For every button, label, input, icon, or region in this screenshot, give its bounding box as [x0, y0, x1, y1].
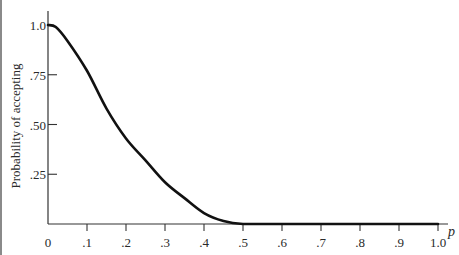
- x-tick-label: .6: [277, 235, 287, 250]
- y-tick-label: .75: [30, 68, 46, 83]
- y-tick-label: .50: [30, 118, 46, 133]
- x-tick-label: .9: [394, 235, 404, 250]
- x-tick-label: .7: [316, 235, 326, 250]
- series-group: [48, 25, 438, 224]
- x-tick-label: .8: [355, 235, 365, 250]
- x-tick-label: .4: [199, 235, 209, 250]
- y-tick-label: .25: [30, 167, 46, 182]
- x-tick-label: .3: [160, 235, 170, 250]
- x-axis-title: p: [447, 224, 455, 239]
- y-axis-title: Probability of accepting: [8, 63, 23, 188]
- x-tick-label: 1.0: [430, 235, 446, 250]
- y-tick-label: 1.0: [30, 18, 46, 33]
- x-tick-label: .2: [121, 235, 131, 250]
- oc-chart: 0.1.2.3.4.5.6.7.8.91.0 .25.50.751.0 Prob…: [0, 0, 459, 255]
- x-tick-label: .1: [82, 235, 92, 250]
- axes: [48, 11, 448, 224]
- oc-curve-line: [48, 25, 438, 224]
- x-tick-label: 0: [45, 235, 52, 250]
- x-tick-label: .5: [238, 235, 248, 250]
- x-ticks: 0.1.2.3.4.5.6.7.8.91.0: [45, 224, 446, 250]
- y-ticks: .25.50.751.0: [30, 18, 57, 182]
